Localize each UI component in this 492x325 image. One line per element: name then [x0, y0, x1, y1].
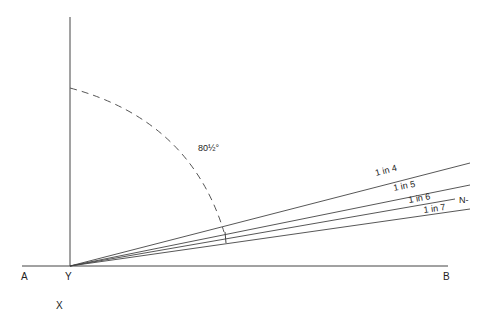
point-b: B — [443, 271, 450, 282]
point-y: Y — [65, 271, 72, 282]
label-1-in-5: 1 in 5 — [392, 179, 416, 193]
angle-arc — [70, 88, 224, 232]
arc-tick — [225, 232, 226, 243]
line-1-in-4 — [70, 163, 470, 266]
label-n: N- — [459, 195, 469, 205]
point-a: A — [21, 271, 28, 282]
line-1-in-7 — [70, 209, 470, 266]
gradient-diagram: 80½° 1 in 4 1 in 5 1 in 6 1 in 7 N- A Y … — [0, 0, 492, 325]
label-1-in-6: 1 in 6 — [408, 191, 431, 205]
label-1-in-4: 1 in 4 — [374, 163, 398, 178]
point-x: X — [56, 300, 63, 311]
angle-label: 80½° — [198, 143, 220, 153]
line-1-in-6 — [70, 199, 455, 266]
